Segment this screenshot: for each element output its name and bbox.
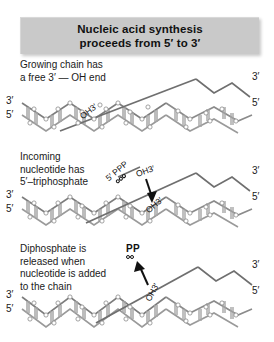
right-5prime-label: 5′	[252, 191, 259, 202]
right-5prime-label: 5′	[252, 97, 259, 108]
left-5prime-label: 5′	[6, 303, 13, 314]
left-3prime-label: 3′	[6, 289, 13, 300]
nucleic-acid-synthesis-figure: Nucleic acid synthesis proceeds from 5′ …	[0, 0, 274, 342]
dna-diagram	[0, 149, 274, 241]
phosphate-circle-icon	[130, 255, 134, 259]
panel-incoming-nucleotide: Incoming nucleotide has 5′–triphosphate	[0, 149, 274, 241]
pyrophosphate-group-icon	[126, 255, 134, 259]
right-5prime-label: 5′	[252, 285, 259, 296]
left-3prime-label: 3′	[6, 189, 13, 200]
figure-title-banner: Nucleic acid synthesis proceeds from 5′ …	[20, 17, 259, 54]
dna-diagram	[0, 241, 274, 337]
left-3prime-label: 3′	[6, 95, 13, 106]
dna-diagram	[0, 57, 274, 149]
right-3prime-label: 3′	[252, 165, 259, 176]
left-5prime-label: 5′	[6, 203, 13, 214]
right-3prime-label: 3′	[252, 71, 259, 82]
figure-title-line-2: proceeds from 5′ to 3′	[80, 36, 201, 50]
pyrophosphate-label: PP	[126, 243, 140, 254]
panel-growing-chain: Growing chain has a free 3′ — OH end	[0, 57, 274, 149]
right-3prime-label: 3′	[252, 259, 259, 270]
figure-title-line-1: Nucleic acid synthesis	[77, 22, 203, 36]
panel-diphosphate-released: Diphosphate is released when nucleotide …	[0, 241, 274, 337]
left-5prime-label: 5′	[6, 109, 13, 120]
